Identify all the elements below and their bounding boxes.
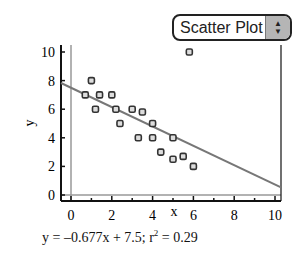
- data-point: [97, 92, 103, 98]
- data-point: [88, 78, 94, 84]
- x-tick-label: 6: [190, 208, 197, 223]
- data-point: [92, 106, 98, 112]
- data-point: [190, 163, 196, 169]
- scatter-chart: 02468100246810xy: [0, 0, 300, 261]
- x-tick-label: 4: [149, 208, 156, 223]
- data-point: [135, 135, 141, 141]
- data-point: [117, 121, 123, 127]
- data-point: [150, 121, 156, 127]
- data-point: [186, 49, 192, 55]
- data-point: [139, 109, 145, 115]
- y-tick-label: 2: [48, 159, 55, 174]
- data-point: [150, 135, 156, 141]
- y-tick-label: 6: [48, 102, 55, 117]
- y-axis-label: y: [22, 120, 37, 127]
- data-point: [129, 106, 135, 112]
- y-tick-label: 0: [48, 188, 55, 203]
- x-tick-label: 10: [268, 208, 282, 223]
- x-axis-label: x: [171, 204, 178, 219]
- regression-equation: y = –0.677x + 7.5; r2 = 0.29: [42, 228, 198, 246]
- y-tick-label: 10: [41, 45, 55, 60]
- data-point: [158, 149, 164, 155]
- data-point: [109, 92, 115, 98]
- y-tick-label: 4: [48, 131, 55, 146]
- x-tick-label: 2: [108, 208, 115, 223]
- x-tick-label: 8: [231, 208, 238, 223]
- y-tick-label: 8: [48, 74, 55, 89]
- x-tick-label: 0: [68, 208, 75, 223]
- data-point: [113, 106, 119, 112]
- data-point: [170, 156, 176, 162]
- data-point: [180, 153, 186, 159]
- data-point: [82, 92, 88, 98]
- data-point: [170, 135, 176, 141]
